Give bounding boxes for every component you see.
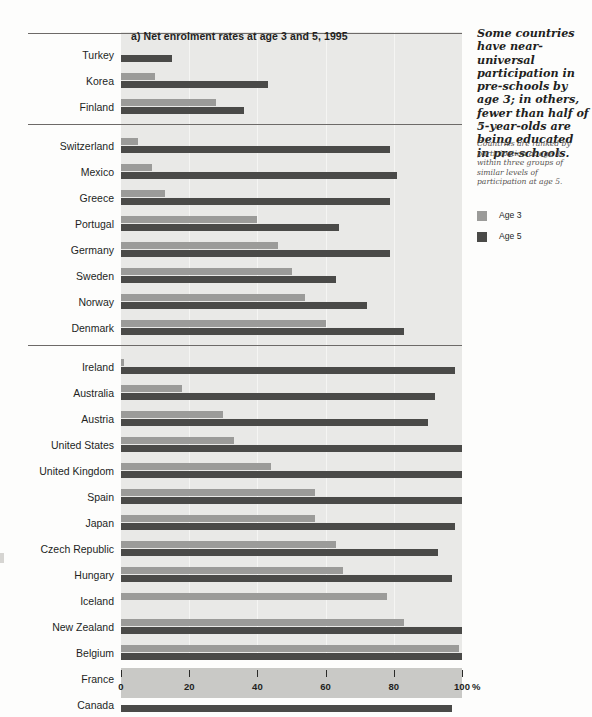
- x-tick-label: 60: [320, 681, 331, 692]
- x-tick: [121, 670, 122, 677]
- bar-age-5: [121, 471, 462, 478]
- category-label: Iceland: [0, 595, 114, 607]
- category-label: Canada: [0, 699, 114, 711]
- category-label: Belgium: [0, 647, 114, 659]
- x-axis-band: [121, 668, 462, 698]
- bar-age-5: [121, 653, 462, 660]
- bar-age-5: [121, 523, 455, 530]
- bar-age-3: [121, 593, 387, 600]
- bar-age-5: [121, 250, 390, 257]
- bar-age-3: [121, 216, 257, 223]
- bar-age-3: [121, 489, 315, 496]
- category-label: Sweden: [0, 270, 114, 282]
- x-tick-label: 80: [389, 681, 400, 692]
- legend-item: Age 3: [477, 208, 587, 229]
- bar-age-5: [121, 497, 462, 504]
- gridline: [326, 32, 327, 660]
- bar-age-3: [121, 73, 155, 80]
- bar-age-5: [121, 445, 462, 452]
- bar-age-3: [121, 164, 152, 171]
- sidebar: Some countries have near-universal parti…: [477, 0, 592, 717]
- bar-age-3: [121, 411, 223, 418]
- category-label: Australia: [0, 387, 114, 399]
- category-label: Czech Republic: [0, 543, 114, 555]
- group-separator: [28, 345, 462, 346]
- bar-age-3: [121, 242, 278, 249]
- category-label: Finland: [0, 101, 114, 113]
- category-label: Ireland: [0, 361, 114, 373]
- category-label: New Zealand: [0, 621, 114, 633]
- bar-age-3: [121, 463, 271, 470]
- bar-age-3: [121, 645, 459, 652]
- category-label: Turkey: [0, 49, 114, 61]
- bar-age-3: [121, 320, 326, 327]
- category-label: France: [0, 673, 114, 685]
- group-separator: [28, 124, 462, 125]
- chart-area: a) Net enrolment rates at age 3 and 5, 1…: [0, 0, 420, 717]
- legend: Age 3Age 5: [477, 208, 587, 250]
- bar-age-3: [121, 567, 343, 574]
- bar-age-5: [121, 81, 268, 88]
- bar-age-3: [121, 294, 305, 301]
- gridline: [257, 32, 258, 660]
- bar-age-5: [121, 172, 397, 179]
- x-tick-label: 0: [118, 681, 123, 692]
- bar-age-5: [121, 302, 367, 309]
- bar-age-3: [121, 385, 182, 392]
- bar-age-3: [121, 515, 315, 522]
- bar-age-5: [121, 627, 462, 634]
- category-label: Germany: [0, 244, 114, 256]
- bar-age-5: [121, 107, 244, 114]
- x-tick-label: 40: [252, 681, 263, 692]
- bar-age-5: [121, 328, 404, 335]
- bar-age-5: [121, 367, 455, 374]
- bar-age-5: [121, 198, 390, 205]
- bar-age-3: [121, 190, 165, 197]
- chart-page: a) Net enrolment rates at age 3 and 5, 1…: [0, 0, 592, 717]
- category-label: Korea: [0, 75, 114, 87]
- category-label: Switzerland: [0, 140, 114, 152]
- bar-age-5: [121, 276, 336, 283]
- category-label: Portugal: [0, 218, 114, 230]
- plot-background: [121, 32, 462, 660]
- bar-age-3: [121, 437, 234, 444]
- legend-swatch: [477, 211, 487, 221]
- legend-label: Age 5: [499, 231, 521, 241]
- gridline: [394, 32, 395, 660]
- category-label: Japan: [0, 517, 114, 529]
- bar-age-5: [121, 549, 438, 556]
- category-label: Greece: [0, 192, 114, 204]
- bar-age-3: [121, 99, 216, 106]
- bar-age-5: [121, 705, 452, 712]
- category-label: United States: [0, 439, 114, 451]
- category-label: Norway: [0, 296, 114, 308]
- legend-item: Age 5: [477, 229, 587, 250]
- category-label: Austria: [0, 413, 114, 425]
- bar-age-5: [121, 55, 172, 62]
- page-edge-mark: [0, 553, 4, 563]
- x-tick: [189, 670, 190, 677]
- bar-age-3: [121, 359, 124, 366]
- category-label: Hungary: [0, 569, 114, 581]
- legend-swatch: [477, 232, 487, 242]
- x-tick: [462, 670, 463, 677]
- bar-age-3: [121, 138, 138, 145]
- bar-age-3: [121, 541, 336, 548]
- bar-age-5: [121, 419, 428, 426]
- category-label: Denmark: [0, 322, 114, 334]
- bar-age-5: [121, 224, 339, 231]
- bar-age-5: [121, 393, 435, 400]
- category-label: Mexico: [0, 166, 114, 178]
- category-label: Spain: [0, 491, 114, 503]
- x-tick: [257, 670, 258, 677]
- x-tick-label: 100: [454, 681, 470, 692]
- sidebar-note: Countries are ranked by participation at…: [477, 139, 585, 187]
- category-label: United Kingdom: [0, 465, 114, 477]
- x-tick-label: 20: [184, 681, 195, 692]
- chart-title: a) Net enrolment rates at age 3 and 5, 1…: [131, 30, 348, 42]
- x-tick: [326, 670, 327, 677]
- bar-age-5: [121, 146, 390, 153]
- bar-age-3: [121, 619, 404, 626]
- legend-label: Age 3: [499, 210, 521, 220]
- bar-age-3: [121, 268, 292, 275]
